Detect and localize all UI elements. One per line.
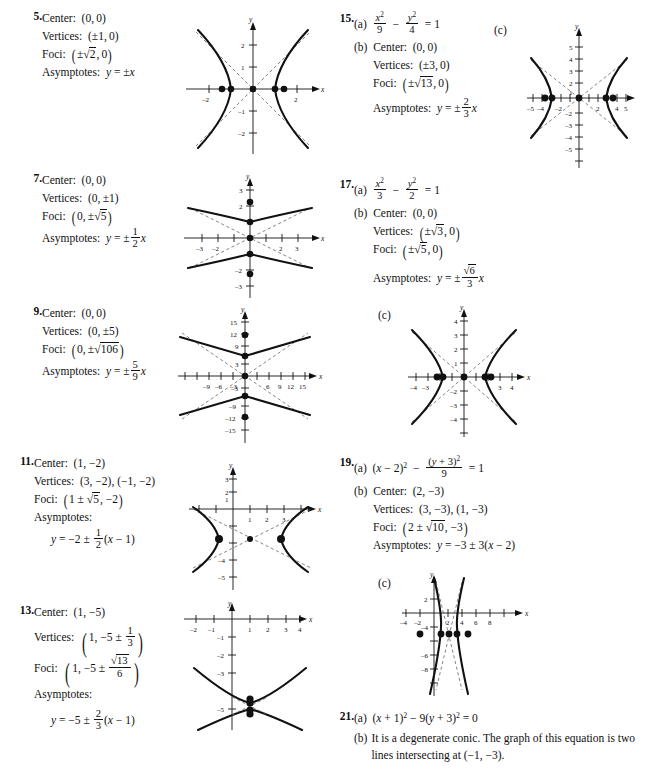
svg-text:x: x xyxy=(320,85,325,94)
answer-body: (a) x23 − y22 = 1 (b) Center: (0, 0) Ver… xyxy=(354,178,484,289)
svg-text:y: y xyxy=(228,462,233,470)
svg-text:9: 9 xyxy=(278,383,282,391)
svg-text:3: 3 xyxy=(284,626,288,634)
svg-text:2: 2 xyxy=(266,626,270,634)
asymptotes-equation: y = −2 ± 12(x − 1) xyxy=(34,527,155,550)
plotted-points xyxy=(542,95,617,102)
problem-number: 15. xyxy=(334,12,354,24)
asymptotes-line: Asymptotes: xyxy=(34,509,155,527)
axes: y xyxy=(527,22,635,168)
svg-text:2: 2 xyxy=(279,245,283,253)
vertices-line: Vertices: (0, ±5) xyxy=(42,323,146,341)
answer-item-5: 5. Center: (0, 0) Vertices: (±1, 0) Foci… xyxy=(22,10,135,82)
svg-text:12: 12 xyxy=(230,331,238,339)
svg-text:y: y xyxy=(227,602,232,608)
svg-text:–8: –8 xyxy=(420,666,429,674)
foci-line: Foci: (1, −5 ± √136) xyxy=(34,655,145,681)
graph-11-svg: x y 1 2 3 3 2 1 –4 –5 xyxy=(185,462,330,597)
svg-text:2: 2 xyxy=(454,346,458,354)
foci-line: Foci: (0, ±√5) xyxy=(42,208,146,226)
svg-text:4: 4 xyxy=(460,619,464,627)
center-line: Center: (0, 0) xyxy=(42,172,146,190)
svg-text:2: 2 xyxy=(424,596,428,604)
plotted-points xyxy=(215,535,285,543)
svg-text:4: 4 xyxy=(510,384,514,392)
svg-text:–2: –2 xyxy=(237,130,246,138)
svg-text:–6: –6 xyxy=(420,652,429,660)
svg-text:1: 1 xyxy=(225,496,229,504)
svg-text:4: 4 xyxy=(615,105,619,113)
svg-text:y: y xyxy=(574,22,579,31)
answer-item-9: 9. Center: (0, 0) Vertices: (0, ±5) Foci… xyxy=(22,305,146,382)
svg-text:3: 3 xyxy=(225,476,229,484)
graph-13-svg: x y –2 –1 1 2 3 4 –1 –2 –3 –5 xyxy=(176,602,328,737)
answer-item-7: 7. Center: (0, 0) Vertices: (0, ±1) Foci… xyxy=(22,172,146,249)
vertices-line: Vertices: (±1, 0) xyxy=(42,28,135,46)
vertices-line: Vertices: (±3, 0) xyxy=(354,57,477,75)
axes: x y xyxy=(184,172,325,298)
svg-text:x: x xyxy=(320,234,325,243)
graph-9-svg: x y –9 –6 –3 6 9 12 15 xyxy=(174,303,330,449)
part-b-center: (b) Center: (2, −3) xyxy=(354,483,515,501)
svg-text:–2: –2 xyxy=(449,388,458,396)
problem-number: 17. xyxy=(334,178,354,190)
svg-text:2: 2 xyxy=(294,96,298,104)
asymptotes-line: Asymptotes: y = ±x xyxy=(42,64,135,82)
svg-text:–5: –5 xyxy=(564,146,573,154)
answer-body: Center: (1, −2) Vertices: (3, −2), (−1, … xyxy=(34,455,155,550)
asymptotes-line: Asymptotes: y = ±23x xyxy=(354,96,477,119)
problem-number: 9. xyxy=(22,305,42,317)
svg-text:3: 3 xyxy=(454,332,458,340)
tick-labels: 1 2 3 3 2 1 –4 –5 xyxy=(217,476,286,582)
asymptotes-line: Asymptotes: y = ±√63x xyxy=(354,265,484,288)
svg-text:–2: –2 xyxy=(554,105,563,113)
svg-text:9: 9 xyxy=(235,343,239,351)
degenerate-text-line1: It is a degenerate conic. The graph of t… xyxy=(371,732,614,744)
svg-text:–12: –12 xyxy=(224,415,236,423)
svg-text:–6: –6 xyxy=(214,383,223,391)
answer-body: Center: (0, 0) Vertices: (0, ±1) Foci: (… xyxy=(42,172,146,249)
center-line: Center: (0, 0) xyxy=(42,305,146,323)
problem-number: 13. xyxy=(14,604,34,616)
svg-text:y: y xyxy=(245,172,250,181)
axes: x y xyxy=(408,304,531,437)
svg-text:2: 2 xyxy=(239,203,243,211)
vertices-line: Vertices: (3, −2), (−1, −2) xyxy=(34,473,155,491)
svg-text:–4: –4 xyxy=(420,624,429,632)
svg-text:3: 3 xyxy=(295,245,299,253)
graph-19: x y –4 –2 2 4 6 8 2 –4 –6 xyxy=(398,572,558,700)
graph-9: x y –9 –6 –3 6 9 12 15 xyxy=(174,303,330,449)
vertices-line: Vertices: (3, −3), (1, −3) xyxy=(354,501,515,519)
part-b-center: (b) Center: (0, 0) xyxy=(354,39,477,57)
asymptotes-line: Asymptotes: xyxy=(34,686,145,704)
svg-text:x: x xyxy=(524,609,529,618)
part-b-text: (b)It is a degenerate conic. The graph o… xyxy=(354,730,639,763)
svg-text:–2: –2 xyxy=(216,652,225,660)
part-a-equation: (a) x29 − y24 = 1 xyxy=(354,12,477,35)
part-b-center: (b) Center: (0, 0) xyxy=(354,205,484,223)
foci-line: Foci: (2 ± √10, −3) xyxy=(354,519,515,537)
svg-text:–4: –4 xyxy=(399,619,408,627)
problem-number: 11. xyxy=(14,455,34,467)
part-a-equation: (a) x23 − y22 = 1 xyxy=(354,178,484,201)
svg-text:–15: –15 xyxy=(224,427,236,435)
svg-text:–4: –4 xyxy=(409,384,418,392)
svg-text:1: 1 xyxy=(454,360,458,368)
part-c-label-15: (c) xyxy=(494,20,507,38)
asymptotes-line: Asymptotes: y = ±59x xyxy=(42,359,146,382)
svg-text:–3: –3 xyxy=(230,385,239,393)
svg-text:–4: –4 xyxy=(217,557,226,565)
graph-17-svg: x y –4 –3 3 4 4 3 2 1 xyxy=(404,304,544,444)
svg-text:15: 15 xyxy=(299,383,307,391)
vertices-line: Vertices: (1, −5 ± 13) xyxy=(34,625,145,650)
graph-5: x y –2 2 2 1 –1 –2 xyxy=(178,14,328,164)
part-c-label-17: (c) xyxy=(378,305,391,323)
plotted-points xyxy=(434,374,495,381)
svg-text:x: x xyxy=(317,505,322,514)
answer-item-11: 11. Center: (1, −2) Vertices: (3, −2), (… xyxy=(14,455,155,550)
answer-item-17: 17. (a) x23 − y22 = 1 (b) Center: (0, 0)… xyxy=(334,178,484,289)
graph-19-svg: x y –4 –2 2 4 6 8 2 –4 –6 xyxy=(398,572,558,700)
graph-17: x y –4 –3 3 4 4 3 2 1 xyxy=(404,304,544,444)
foci-line: Foci: (0, ±√106) xyxy=(42,341,146,359)
axes: x y xyxy=(178,305,323,443)
